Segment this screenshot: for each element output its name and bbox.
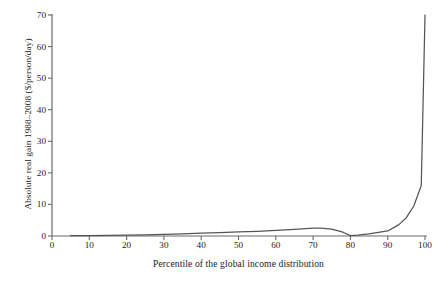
axis-ticks (48, 15, 425, 240)
chart-figure: Absolute real gain 1988–2008 ($/person/d… (0, 0, 438, 284)
axis-spines (52, 14, 427, 236)
data-series-line (71, 15, 425, 236)
plot-area (0, 0, 438, 284)
